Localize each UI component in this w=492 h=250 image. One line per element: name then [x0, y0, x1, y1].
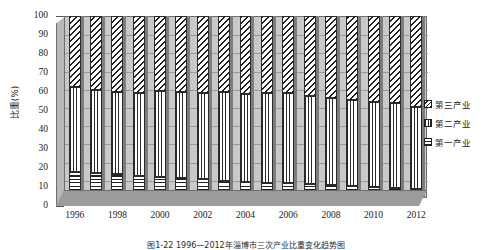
x-axis-tick: 1998	[97, 210, 137, 220]
bar-column[interactable]	[90, 16, 102, 198]
bar-segment-secondary[interactable]	[325, 98, 337, 185]
bar-column[interactable]	[282, 16, 294, 198]
x-axis-tick: 2006	[268, 210, 308, 220]
bar-segment-tertiary[interactable]	[368, 16, 380, 102]
y-axis-tick: 10	[22, 181, 48, 191]
legend-item-label: 第一产业	[435, 136, 471, 148]
bar-side-face	[316, 16, 319, 198]
bar-segment-secondary[interactable]	[133, 93, 145, 176]
bar-segment-secondary[interactable]	[90, 90, 102, 174]
y-axis-tick: 50	[22, 105, 48, 115]
y-axis-tick: 70	[22, 67, 48, 77]
bar-segment-tertiary[interactable]	[69, 16, 81, 87]
bar-side-face	[401, 16, 404, 198]
bar-side-face	[81, 16, 84, 198]
bar-side-face	[102, 16, 105, 198]
bar-segment-secondary[interactable]	[111, 92, 123, 175]
bar-column[interactable]	[389, 16, 401, 198]
bar-segment-secondary[interactable]	[240, 94, 252, 181]
bar-column[interactable]	[197, 16, 209, 198]
bar-segment-secondary[interactable]	[346, 100, 358, 186]
bar-side-face	[380, 16, 383, 198]
bar-segment-tertiary[interactable]	[133, 16, 145, 93]
bar-segment-secondary[interactable]	[389, 103, 401, 188]
bar-segment-secondary[interactable]	[410, 107, 422, 189]
bar-segment-secondary[interactable]	[154, 91, 166, 177]
bar-column[interactable]	[261, 16, 273, 198]
bar-segment-secondary[interactable]	[218, 92, 230, 180]
bar-segment-tertiary[interactable]	[197, 16, 209, 93]
bar-side-face	[337, 16, 340, 198]
x-axis-tick: 2002	[183, 210, 223, 220]
bar-side-face	[294, 16, 297, 198]
bar-side-face	[358, 16, 361, 198]
legend-item-label: 第二产业	[435, 117, 471, 129]
y-axis-tick: 60	[22, 86, 48, 96]
bar-segment-secondary[interactable]	[282, 93, 294, 183]
bar-segment-tertiary[interactable]	[304, 16, 316, 96]
bar-side-face	[187, 16, 190, 198]
bar-segment-tertiary[interactable]	[261, 16, 273, 93]
bar-column[interactable]	[69, 16, 81, 198]
y-axis-tick: 0	[22, 200, 48, 210]
y-axis-tick: 40	[22, 124, 48, 134]
bar-segment-tertiary[interactable]	[90, 16, 102, 90]
bar-column[interactable]	[410, 16, 422, 198]
bar-segment-secondary[interactable]	[304, 96, 316, 184]
legend-item[interactable]: 第一产业	[424, 136, 492, 148]
y-axis-label: 比重(%)	[8, 73, 21, 133]
bar-segment-tertiary[interactable]	[282, 16, 294, 93]
plot-area	[56, 16, 427, 206]
x-axis-tick: 1996	[55, 210, 95, 220]
y-axis-tick: 100	[22, 10, 48, 20]
x-axis-tick: 2010	[354, 210, 394, 220]
bar-segment-tertiary[interactable]	[175, 16, 187, 92]
bar-side-face	[166, 16, 169, 198]
plot-floor	[56, 190, 427, 207]
legend-item[interactable]: 第二产业	[424, 117, 492, 129]
bar-column[interactable]	[304, 16, 316, 198]
bar-column[interactable]	[175, 16, 187, 198]
bar-segment-secondary[interactable]	[261, 93, 273, 182]
bar-column[interactable]	[154, 16, 166, 198]
bar-side-face	[251, 16, 254, 198]
bar-side-face	[230, 16, 233, 198]
bar-column[interactable]	[133, 16, 145, 198]
y-axis-tickmark	[56, 206, 64, 207]
bar-side-face	[123, 16, 126, 198]
figure-caption: 图1-22 1996—2012年淄博市三次产业比重变化趋势图	[0, 239, 492, 250]
x-axis-tick: 2012	[396, 210, 436, 220]
bar-segment-tertiary[interactable]	[154, 16, 166, 91]
bar-segment-tertiary[interactable]	[325, 16, 337, 98]
bar-column[interactable]	[325, 16, 337, 198]
legend-item[interactable]: 第三产业	[424, 98, 492, 110]
x-axis-tick: 2000	[140, 210, 180, 220]
legend-swatch-primary-icon	[424, 138, 432, 146]
bar-segment-tertiary[interactable]	[111, 16, 123, 92]
legend-item-label: 第三产业	[435, 98, 471, 110]
bar-segment-secondary[interactable]	[197, 93, 209, 179]
bar-side-face	[273, 16, 276, 198]
bar-column[interactable]	[240, 16, 252, 198]
bar-column[interactable]	[218, 16, 230, 198]
legend: 第三产业第二产业第一产业	[424, 98, 492, 155]
bar-column[interactable]	[368, 16, 380, 198]
bar-side-face	[209, 16, 212, 198]
bar-segment-tertiary[interactable]	[218, 16, 230, 92]
bar-column[interactable]	[346, 16, 358, 198]
y-axis-tick: 30	[22, 143, 48, 153]
x-axis-tick: 2004	[226, 210, 266, 220]
bar-segment-secondary[interactable]	[368, 102, 380, 188]
bar-segment-secondary[interactable]	[69, 87, 81, 172]
bar-segment-tertiary[interactable]	[410, 16, 422, 107]
bar-segment-secondary[interactable]	[175, 92, 187, 178]
bar-column[interactable]	[111, 16, 123, 198]
bar-segment-tertiary[interactable]	[346, 16, 358, 100]
y-axis-tick: 90	[22, 29, 48, 39]
legend-swatch-tertiary-icon	[424, 100, 432, 108]
bar-segment-tertiary[interactable]	[240, 16, 252, 94]
y-axis-tick: 20	[22, 162, 48, 172]
bar-segment-tertiary[interactable]	[389, 16, 401, 103]
bar-series-group	[64, 16, 427, 198]
bar-side-face	[145, 16, 148, 198]
